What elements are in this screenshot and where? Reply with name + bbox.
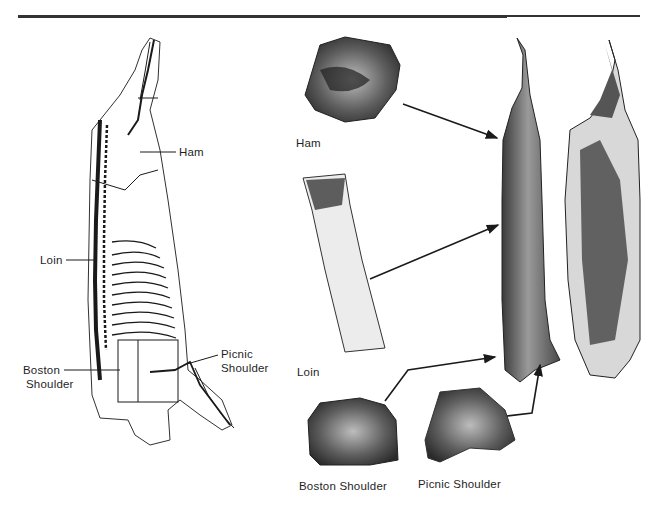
- picnic-shoulder-photo: [425, 388, 515, 462]
- diagram-label-ham: Ham: [179, 146, 204, 159]
- photo-label-picnic-shoulder: Picnic Shoulder: [418, 478, 501, 491]
- arrow-loin: [370, 225, 498, 279]
- photo-label-loin: Loin: [297, 366, 320, 379]
- diagram-label-boston-1: Boston: [23, 364, 60, 377]
- diagram-label-loin: Loin: [40, 254, 63, 267]
- photo-label-boston-shoulder: Boston Shoulder: [299, 480, 387, 493]
- ham-boundary: [92, 170, 158, 190]
- carcass-outline: [88, 38, 232, 445]
- boston-shoulder-photo: [308, 398, 398, 465]
- arrow-ham: [403, 104, 497, 138]
- diagram-label-picnic-1: Picnic: [221, 348, 253, 361]
- illustration-canvas: [0, 0, 662, 505]
- diagram-label-picnic-2: Shoulder: [221, 362, 269, 375]
- ribs: [112, 241, 176, 338]
- hind-leg-bone: [128, 40, 154, 135]
- picnic-leader: [187, 355, 218, 364]
- diagram-label-boston-2: Shoulder: [26, 378, 74, 391]
- photo-label-ham: Ham: [296, 137, 321, 150]
- carcass-skin-side-photo: [502, 38, 560, 382]
- spine: [95, 120, 100, 380]
- carcass-skeleton-diagram: [64, 38, 234, 445]
